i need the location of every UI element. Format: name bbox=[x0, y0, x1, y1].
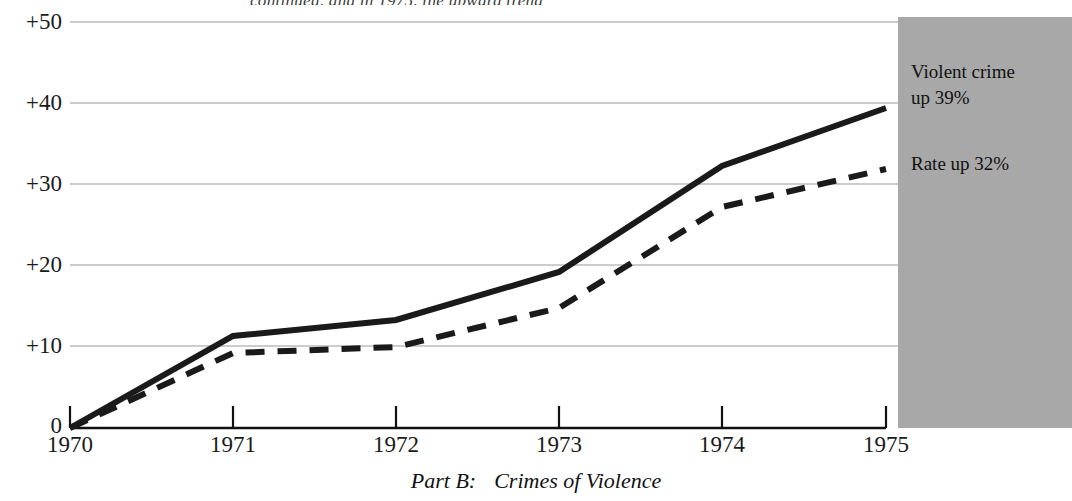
annotation-violent-crime-line2: up 39% bbox=[911, 85, 1015, 111]
y-tick-label-20: +20 bbox=[6, 253, 62, 276]
annotation-violent-crime: Violent crime up 39% bbox=[911, 59, 1015, 110]
annotation-violent-crime-line1: Violent crime bbox=[911, 59, 1015, 85]
x-tick-label-1971: 1971 bbox=[173, 432, 293, 457]
y-tick-label-30: +30 bbox=[6, 172, 62, 195]
x-tick-label-1972: 1972 bbox=[336, 432, 456, 457]
caption-part-label: Part B: bbox=[411, 468, 476, 493]
x-tick-label-1973: 1973 bbox=[499, 432, 619, 457]
y-tick-label-40: +40 bbox=[6, 91, 62, 114]
series-line-violent-crime bbox=[70, 108, 886, 428]
x-tick-label-1975: 1975 bbox=[826, 432, 946, 457]
caption-title: Crimes of Violence bbox=[494, 468, 661, 493]
y-tick-label-50: +50 bbox=[6, 10, 62, 33]
x-tick-label-1974: 1974 bbox=[662, 432, 782, 457]
annotation-rate: Rate up 32% bbox=[911, 151, 1009, 177]
annotation-panel: Violent crime up 39% Rate up 32% bbox=[898, 17, 1072, 428]
chart-caption: Part B:Crimes of Violence bbox=[0, 468, 1072, 494]
chart-page: continued, and in 1975, the upward trend bbox=[0, 0, 1072, 501]
y-tick-label-10: +10 bbox=[6, 334, 62, 357]
x-tick-label-1970: 1970 bbox=[10, 432, 130, 457]
x-axis-ticks bbox=[70, 406, 886, 428]
